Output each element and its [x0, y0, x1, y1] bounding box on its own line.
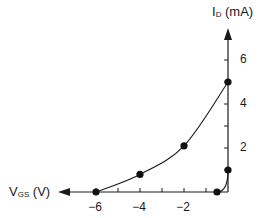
y-axis-arrow-icon: [224, 28, 232, 40]
y-tick-label: 4: [240, 96, 247, 110]
x-axis-label-unit: (V): [29, 184, 50, 199]
x-axis-label-sub: GS: [18, 190, 30, 199]
data-point-marker: [136, 171, 143, 178]
data-point-marker: [224, 166, 231, 173]
x-axis-label-main: V: [9, 184, 18, 199]
data-point-marker: [180, 142, 187, 149]
transfer-characteristic-chart: ID (mA) VGS (V) −6−4−2 246: [0, 0, 264, 218]
y-tick-label: 2: [240, 140, 247, 154]
x-axis-label: VGS (V): [9, 184, 50, 199]
data-point-marker: [92, 188, 99, 195]
y-axis-label-unit: (mA): [221, 4, 253, 19]
x-axis-arrow-icon: [58, 188, 70, 196]
x-tick-label: −6: [88, 200, 102, 214]
data-point-marker: [213, 188, 220, 195]
x-tick-label: −4: [132, 200, 146, 214]
data-point-marker: [224, 78, 231, 85]
y-axis-label: ID (mA): [212, 4, 253, 19]
x-tick-label: −2: [176, 200, 190, 214]
curve-steep: [217, 170, 228, 192]
y-tick-label: 6: [240, 52, 247, 66]
curve-main: [96, 82, 228, 192]
